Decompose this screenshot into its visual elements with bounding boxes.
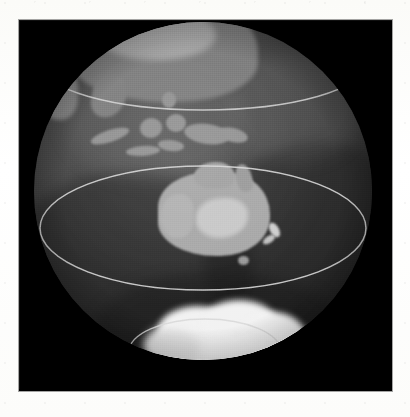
sulawesi — [166, 114, 186, 132]
australia — [152, 162, 280, 262]
antarctic-peninsula — [270, 334, 314, 360]
globe-image-plate — [19, 20, 392, 391]
philippines — [162, 92, 176, 108]
arnhem-land — [194, 162, 234, 188]
earth-globe — [34, 22, 372, 360]
plate-bottom-edge — [19, 389, 392, 391]
antarctica — [140, 300, 318, 360]
page-canvas — [0, 0, 410, 417]
globe-wrapper — [19, 20, 390, 391]
india — [38, 68, 78, 120]
tasmania — [238, 256, 249, 265]
western-australia — [160, 194, 194, 238]
antarctic-ice-shelf — [148, 330, 200, 360]
